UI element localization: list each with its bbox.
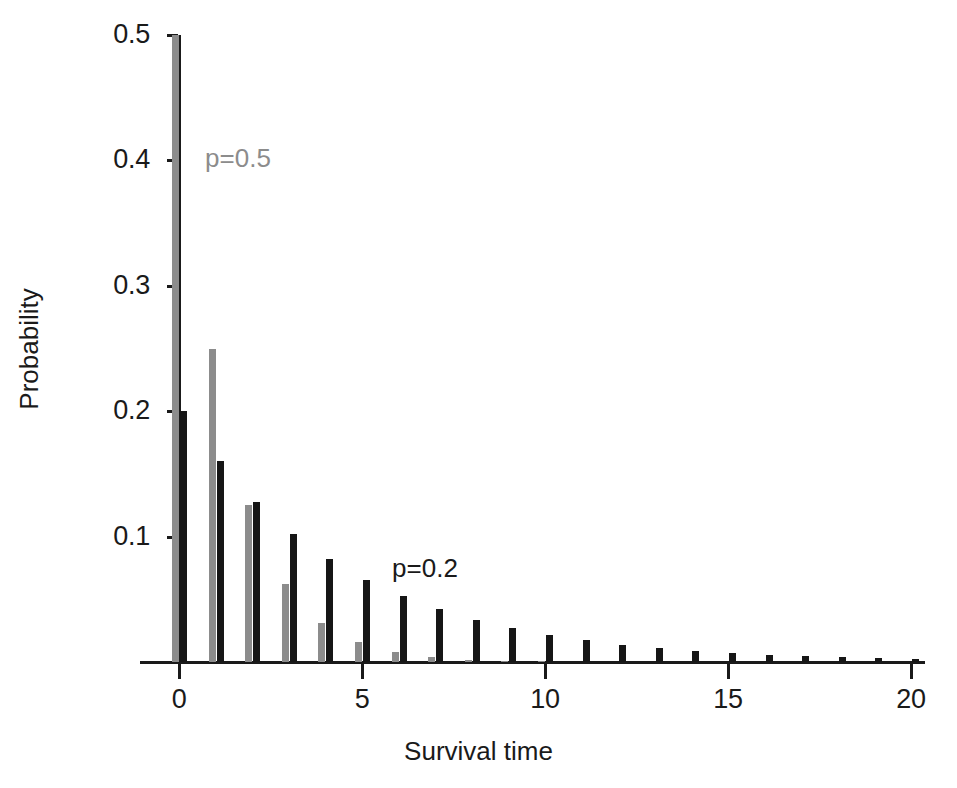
bar (509, 628, 516, 662)
bar (692, 651, 699, 662)
bar (802, 656, 809, 662)
bar (318, 623, 325, 662)
x-axis-title: Survival time (0, 736, 957, 767)
bar (546, 635, 553, 662)
bar (839, 657, 846, 662)
x-axis-tick-label: 10 (510, 686, 580, 713)
series-label-p02: p=0.2 (392, 555, 458, 581)
x-axis-tick-label: 20 (876, 686, 946, 713)
bar (583, 640, 590, 662)
bar (619, 645, 626, 662)
plot-area (0, 0, 957, 662)
x-axis-tick (727, 664, 730, 679)
bar (473, 620, 480, 662)
bar (245, 505, 252, 662)
bar (172, 35, 179, 662)
bar (363, 580, 370, 662)
bar (217, 461, 224, 662)
bar (465, 660, 472, 662)
bar (180, 411, 187, 662)
bar (729, 653, 736, 662)
bar (282, 584, 289, 662)
x-axis-tick-label: 5 (327, 686, 397, 713)
bar (501, 661, 508, 662)
x-axis-tick-label: 15 (693, 686, 763, 713)
x-axis-tick-label: 0 (144, 686, 214, 713)
series-label-p05: p=0.5 (205, 145, 271, 171)
bar (290, 534, 297, 662)
bar (912, 659, 919, 662)
bar (875, 658, 882, 662)
bar (209, 349, 216, 663)
x-axis-tick (178, 664, 181, 679)
bar (326, 559, 333, 662)
bar (253, 502, 260, 663)
bar (766, 655, 773, 662)
bar (436, 609, 443, 662)
x-axis-tick (544, 664, 547, 679)
bar (392, 652, 399, 662)
x-axis-tick (910, 664, 913, 679)
chart-figure: 0.10.20.30.40.5 05101520 p=0.5p=0.2 Prob… (0, 0, 957, 788)
bar (355, 642, 362, 662)
bar (400, 596, 407, 662)
bar (428, 657, 435, 662)
x-axis-tick (361, 664, 364, 679)
bar (538, 661, 545, 662)
bar (656, 648, 663, 662)
y-axis-title: Probability (14, 199, 45, 499)
